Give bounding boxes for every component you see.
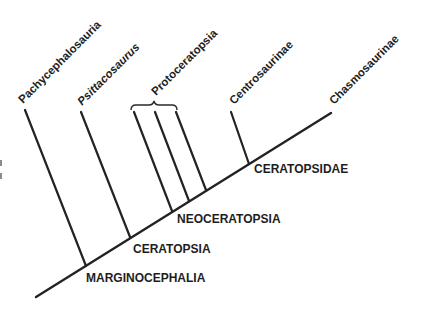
clade-label-ceratopsia: CERATOPSIA <box>133 242 211 256</box>
taxon-label-centrosaurinae: Centrosaurinae <box>227 38 295 106</box>
main-trunk-line <box>36 113 331 297</box>
clade-label-marginocephalia: MARGINOCEPHALIA <box>86 271 206 285</box>
branch-centrosaurinae <box>231 112 249 164</box>
clade-label-ceratopsidae: CERATOPSIDAE <box>254 162 348 176</box>
taxon-label-chasmosaurinae: Chasmosaurinae <box>327 32 401 106</box>
branch-pachycephalosauria <box>25 110 86 266</box>
branch-psittacosaurus <box>81 112 130 237</box>
cladogram-diagram: Pachycephalosauria Psittacosaurus Protoc… <box>0 0 421 312</box>
scan-artifact-mark <box>0 173 2 179</box>
scan-artifact-mark <box>0 160 2 166</box>
taxon-label-protoceratopsia: Protoceratopsia <box>149 27 220 98</box>
clade-label-neoceratopsia: NEOCERATOPSIA <box>177 212 281 226</box>
taxon-label-psittacosaurus: Psittacosaurus <box>75 41 142 108</box>
branch-protoceratopsia-2 <box>155 112 189 201</box>
protoceratopsia-bracket <box>131 101 177 110</box>
branch-protoceratopsia-1 <box>134 112 172 211</box>
